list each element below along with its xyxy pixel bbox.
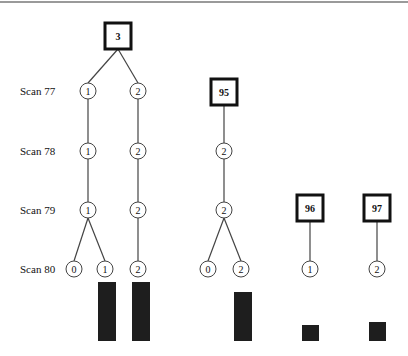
tree-node: 1 <box>80 202 96 218</box>
node-label: 2 <box>136 205 141 216</box>
root-box: 95 <box>211 79 237 105</box>
tree-node: 2 <box>130 202 146 218</box>
tree-edge <box>74 218 88 261</box>
tree-edge <box>88 49 118 83</box>
tree-node: 2 <box>130 143 146 159</box>
tree-nodes: 121221220120212 <box>66 83 385 277</box>
scan-label: Scan 77 <box>20 85 56 97</box>
tree-node: 1 <box>97 261 113 277</box>
node-label: 1 <box>86 146 91 157</box>
root-box: 3 <box>105 23 131 49</box>
node-label: 0 <box>206 264 211 275</box>
node-label: 1 <box>103 264 108 275</box>
bar <box>302 325 319 341</box>
scan-label: Scan 78 <box>20 145 56 157</box>
tree-node: 1 <box>80 83 96 99</box>
scan-label: Scan 80 <box>20 263 56 275</box>
node-label: 1 <box>308 264 313 275</box>
node-label: 2 <box>222 146 227 157</box>
tree-node: 2 <box>216 202 232 218</box>
node-label: 1 <box>86 86 91 97</box>
root-box: 96 <box>297 195 323 221</box>
bar <box>132 282 150 341</box>
tree-node: 1 <box>302 261 318 277</box>
bar <box>234 292 252 341</box>
tree-edge <box>224 218 241 261</box>
tree-node: 2 <box>216 143 232 159</box>
tree-edge <box>208 218 224 261</box>
root-label: 97 <box>372 203 382 214</box>
node-label: 2 <box>136 264 141 275</box>
tree-node: 0 <box>66 261 82 277</box>
root-label: 96 <box>305 203 315 214</box>
node-label: 1 <box>86 205 91 216</box>
root-label: 3 <box>116 31 121 42</box>
root-boxes: 3959697 <box>105 23 390 221</box>
tree-edge <box>88 218 105 261</box>
node-label: 0 <box>72 264 77 275</box>
tree-node: 2 <box>130 83 146 99</box>
node-label: 2 <box>239 264 244 275</box>
bar <box>369 322 386 341</box>
node-label: 2 <box>136 146 141 157</box>
tree-node: 0 <box>200 261 216 277</box>
tree-node: 1 <box>80 143 96 159</box>
tree-node: 2 <box>130 261 146 277</box>
node-label: 2 <box>136 86 141 97</box>
tree-node: 2 <box>233 261 249 277</box>
root-box: 97 <box>364 195 390 221</box>
scan-label: Scan 79 <box>20 204 56 216</box>
scan-labels: Scan 77Scan 78Scan 79Scan 80 <box>20 85 56 275</box>
tree-edge <box>118 49 138 83</box>
bar <box>98 282 116 341</box>
root-label: 95 <box>219 87 229 98</box>
node-label: 2 <box>222 205 227 216</box>
scan-tree-diagram: Scan 77Scan 78Scan 79Scan 80 12122122012… <box>0 0 408 356</box>
bars <box>98 282 386 341</box>
node-label: 2 <box>375 264 380 275</box>
tree-node: 2 <box>369 261 385 277</box>
